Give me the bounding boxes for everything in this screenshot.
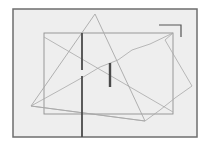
diagram-canvas (0, 0, 206, 152)
geometric-diagram (0, 0, 206, 152)
diagram-frame (13, 9, 197, 137)
